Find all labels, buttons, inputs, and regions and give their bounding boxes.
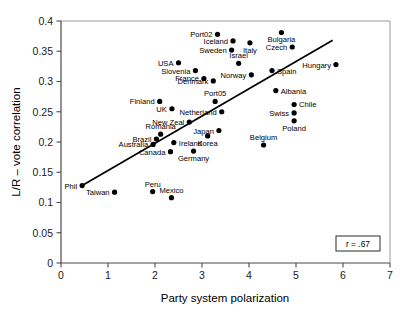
data-point [230,38,235,43]
data-point [171,140,176,145]
x-tick-label: 3 [199,269,205,281]
data-point [261,142,266,147]
data-point-label: Taiwan [86,188,110,197]
data-point-label: Germany [178,154,209,163]
data-point [154,136,159,141]
y-tick-label: 0.2 [38,136,53,148]
data-point [150,189,155,194]
y-tick-label: 0.1 [38,196,53,208]
data-point-label: Belgium [250,133,277,142]
x-tick-label: 2 [152,269,158,281]
data-point [213,99,218,104]
data-point [157,99,162,104]
y-tick-label: 0.15 [33,166,54,178]
data-point-label: Mexico [159,186,183,195]
data-point [269,68,274,73]
data-point [219,109,224,114]
data-point [290,44,295,49]
data-point-label: Canada [139,148,166,157]
data-point-label: Finland [130,97,155,106]
data-point [292,110,297,115]
data-point [216,128,221,133]
y-tick-label: 0.3 [38,75,53,87]
plot-axes [61,21,390,263]
data-point-label: Phil [64,182,77,191]
data-point [158,132,163,137]
data-point [247,40,252,45]
data-point [191,148,196,153]
annotation-text: r = .67 [346,239,370,249]
data-point [236,61,241,66]
data-point-label: Iceland [204,37,229,46]
x-axis-title: Party system polarization [161,292,289,304]
data-point [169,195,174,200]
data-point-label: Brazil [132,135,151,144]
data-point-label: Japan [193,127,214,136]
x-tick-label: 5 [293,269,299,281]
y-tick-label: 0.05 [33,227,54,239]
y-tick-label: 0.4 [38,15,53,27]
y-axis-tick-labels: 00.050.10.150.20.250.30.350.4 [33,15,54,269]
correlation-annotation: r = .67 [336,236,380,251]
data-point-label: Korea [198,139,219,148]
plot-frame-top-right [61,21,390,263]
data-point [292,118,297,123]
data-point [249,72,254,77]
data-point [292,102,297,107]
data-point-label: Port05 [204,89,226,98]
x-tick-label: 6 [340,269,346,281]
data-point-label: Poland [282,124,306,133]
data-point-label: Sweden [199,46,226,55]
data-point-label: Chile [299,100,316,109]
y-axis-title: L/R – vote correlation [10,87,22,196]
data-point [273,88,278,93]
x-tick-label: 1 [105,269,111,281]
axis-ticks [57,21,391,268]
data-point-label: Italy [243,46,257,55]
x-tick-label: 0 [58,269,64,281]
y-tick-label: 0.35 [33,45,54,57]
data-point [211,78,216,83]
data-point-label: Hungary [302,61,331,70]
data-point-label: Swiss [269,109,289,118]
data-point [176,60,181,65]
x-tick-label: 4 [246,269,252,281]
data-point-label: UK [156,105,167,114]
data-point [168,149,173,154]
chart-canvas: 01234567 00.050.10.150.20.250.30.350.4 P… [0,0,412,317]
data-point [193,68,198,73]
scatter-plot-figure: 01234567 00.050.10.150.20.250.30.350.4 P… [0,0,412,317]
data-point-label: Albania [281,87,307,96]
data-point-label: Norway [221,71,247,80]
data-point [187,119,192,124]
data-point [112,190,117,195]
data-point [279,30,284,35]
x-axis-tick-labels: 01234567 [58,269,393,281]
data-point-label: Denmark [177,77,208,86]
data-point-label: Czech [266,43,288,52]
plot-frame [61,21,390,263]
data-point [169,106,174,111]
y-tick-label: 0.25 [33,106,54,118]
data-point [333,62,338,67]
data-point-label: Peru [145,180,161,189]
data-point-label: Spain [277,67,296,76]
data-point-label: Netherland [180,108,217,117]
data-point [80,183,85,188]
x-tick-label: 7 [387,269,393,281]
data-point-label: New Zeal [152,118,184,127]
y-tick-label: 0 [47,257,53,269]
